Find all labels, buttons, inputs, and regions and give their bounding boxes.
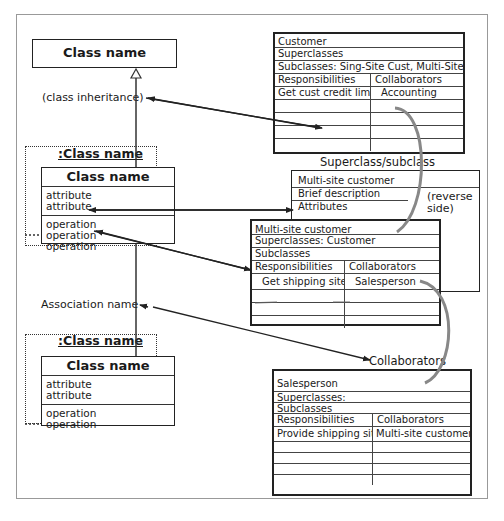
crc-name: Multi-site customer bbox=[298, 171, 394, 187]
crc-resp-header: Responsibilities bbox=[252, 261, 345, 273]
crc-subclasses: Subclasses: Sing-Site Cust, Multi-Site C… bbox=[278, 61, 463, 73]
inheritance-label: (class inheritance) bbox=[42, 91, 144, 104]
crc-collab-header: Collaborators bbox=[345, 261, 439, 273]
object2-operations: operation operation bbox=[42, 404, 174, 433]
object1-operations: operation operation operation bbox=[42, 215, 174, 255]
crc-collab-header: Collaborators bbox=[373, 414, 470, 426]
crc-superclasses: Superclasses: bbox=[277, 392, 346, 402]
crc-name: Customer bbox=[278, 34, 327, 47]
crc-card-multisite: Multi-site customer Superclasses: Custom… bbox=[250, 219, 441, 326]
superclass-subclass-label: Superclass/subclass bbox=[320, 155, 435, 169]
superclass-box: Class name bbox=[32, 39, 177, 68]
attribute-item: attribute bbox=[46, 201, 170, 212]
attribute-item: attribute bbox=[46, 390, 170, 401]
object1-attributes: attribute attribute bbox=[42, 187, 174, 215]
crc-collaborator: Accounting bbox=[371, 87, 463, 99]
crc-card-salesperson: Salesperson Superclasses: Subclasses Res… bbox=[272, 369, 472, 496]
object2-title: Class name bbox=[42, 357, 174, 376]
crc-subclasses: Subclasses bbox=[255, 248, 310, 260]
crc-brief-description: Brief description bbox=[298, 188, 380, 200]
object2-attributes: attribute attribute bbox=[42, 376, 174, 404]
operation-item: operation bbox=[46, 419, 170, 430]
crc-responsibility: Get cust credit limit bbox=[275, 87, 371, 99]
crc-collab-header: Collaborators bbox=[371, 74, 463, 86]
crc-superclasses: Superclasses: Customer bbox=[255, 235, 375, 247]
crc-responsibility: Get shipping site bbox=[252, 274, 345, 289]
crc-collaborator: Multi-site customer bbox=[373, 427, 470, 441]
object1-title: Class name bbox=[42, 168, 174, 187]
crc-resp-header: Responsibilities bbox=[274, 414, 373, 426]
crc-subclasses: Subclasses bbox=[277, 403, 332, 413]
association-label: Association name bbox=[41, 298, 138, 311]
crc-attributes: Attributes bbox=[298, 201, 347, 213]
object2-class-box: Class name attribute attribute operation… bbox=[41, 356, 175, 426]
object1-name: :Class name bbox=[58, 146, 143, 161]
crc-name: Salesperson bbox=[277, 371, 338, 391]
reverse-side-note: (reverse side) bbox=[427, 191, 475, 215]
operation-item: operation bbox=[46, 241, 170, 252]
crc-resp-header: Responsibilities bbox=[275, 74, 371, 86]
crc-name: Multi-site customer bbox=[255, 221, 351, 234]
collaborators-label: Collaborators bbox=[369, 354, 446, 368]
crc-collaborator: Salesperson bbox=[345, 274, 439, 289]
superclass-title: Class name bbox=[33, 40, 176, 66]
crc-responsibility: Provide shipping site bbox=[274, 427, 373, 441]
crc-superclasses: Superclasses bbox=[278, 48, 343, 60]
crc-card-customer: Customer Superclasses Subclasses: Sing-S… bbox=[273, 32, 465, 154]
object1-class-box: Class name attribute attribute operation… bbox=[41, 167, 175, 244]
object2-name: :Class name bbox=[58, 333, 143, 348]
